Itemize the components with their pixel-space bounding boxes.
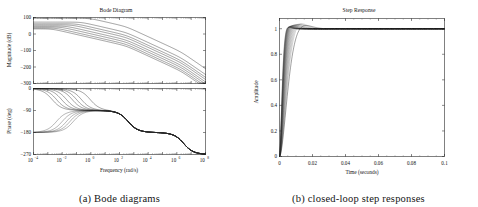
bode-phase-curve-upper (34, 89, 206, 155)
bode-magnitude-tick-label: 0 (28, 31, 31, 37)
bode-frequency-tick-label: 10−4 (28, 156, 38, 163)
svg-text:10: 10 (200, 157, 206, 163)
bode-frequency-tick-label: 104 (142, 156, 151, 163)
svg-text:8: 8 (207, 156, 209, 160)
bode-phase-curve-upper (34, 89, 206, 155)
bode-phase-curve-upper (34, 89, 206, 154)
bode-phase-ylabel: Phase (deg) (6, 108, 13, 134)
step-amplitude-ticks: 00.20.40.60.81 (271, 26, 445, 160)
step-response-curve (280, 25, 445, 157)
bode-magnitude-tick-label: 100 (23, 14, 31, 20)
svg-text:10: 10 (142, 157, 148, 163)
bode-phase-frame (34, 89, 206, 155)
bode-magnitude-ylabel: Magnitude (dB) (6, 33, 13, 68)
step-amplitude-tick-label: 0.8 (271, 51, 278, 57)
step-time-tick-label: 0 (278, 160, 281, 166)
panel-bode-diagrams: Bode Diagram 1000−100−200−300 0−90−180−2… (0, 0, 239, 207)
bode-phase-curves (34, 89, 206, 155)
bode-chart-title: Bode Diagram (100, 7, 133, 13)
svg-text:6: 6 (179, 156, 181, 160)
bode-frequency-tick-label: 10−2 (56, 156, 66, 163)
step-plot-frame (280, 19, 445, 157)
step-response-curve (280, 26, 445, 156)
step-response-curve (280, 27, 445, 157)
step-response-curve (280, 26, 445, 156)
bode-phase-curve-upper (34, 89, 206, 155)
bode-phase-curve-lower (34, 111, 206, 154)
step-response-curve (280, 26, 445, 157)
step-response-curve (280, 24, 445, 156)
step-response-curve (280, 26, 445, 157)
step-amplitude-tick-label: 0.6 (271, 77, 278, 83)
step-response-curve (280, 27, 445, 156)
bode-magnitude-curve (34, 22, 206, 74)
step-chart-title: Step Response (343, 7, 376, 13)
bode-magnitude-tick-label: −200 (20, 64, 31, 70)
bode-phase-tick-label: 0 (28, 85, 31, 91)
bode-phase-curve-upper (34, 89, 206, 155)
step-response-curve (280, 26, 445, 156)
step-xlabel: Time (seconds) (345, 169, 378, 176)
bode-phase-tick-label: −90 (23, 107, 31, 113)
svg-text:0: 0 (93, 156, 95, 160)
svg-text:10: 10 (114, 157, 120, 163)
bode-magnitude-curves (34, 18, 206, 83)
step-response-curve (280, 25, 445, 156)
step-response-curve (280, 27, 445, 156)
bode-phase-curve-upper (34, 89, 206, 155)
caption-a: (a) Bode diagrams (0, 193, 239, 204)
step-response-curve (280, 24, 445, 157)
panel-step-responses: Step Response 00.20.40.60.81 00.020.040.… (239, 0, 478, 207)
bode-phase-tick-label: −180 (20, 129, 31, 135)
step-response-curve (280, 26, 445, 156)
bode-frequency-tick-label: 106 (171, 156, 180, 163)
bode-phase-curve-lower (34, 111, 206, 154)
svg-text:4: 4 (150, 156, 152, 160)
step-time-tick-label: 0.02 (308, 160, 317, 166)
step-response-curve (280, 25, 445, 156)
bode-frequency-tick-label: 108 (200, 156, 209, 163)
svg-text:10: 10 (28, 157, 34, 163)
bode-frequency-tick-label: 102 (114, 156, 123, 163)
step-response-curve (280, 27, 445, 157)
step-response-curves (280, 24, 445, 157)
step-response-curve (280, 25, 445, 157)
bode-plot-svg: Bode Diagram 1000−100−200−300 0−90−180−2… (0, 0, 239, 207)
step-response-curve (280, 24, 445, 157)
step-response-curve (280, 24, 445, 156)
step-response-curve (280, 25, 445, 156)
bode-phase-ticks: 0−90−180−270 (20, 85, 205, 157)
bode-magnitude-curve (34, 26, 206, 82)
step-time-tick-label: 0.1 (441, 160, 448, 166)
bode-magnitude-curve (34, 28, 206, 83)
step-time-tick-label: 0.06 (374, 160, 383, 166)
bode-xlabel: Frequency (rad/s) (100, 167, 138, 174)
caption-b: (b) closed-loop step responses (239, 193, 478, 204)
step-amplitude-tick-label: 0 (274, 153, 277, 159)
bode-phase-curve-lower (34, 111, 206, 154)
step-plot-svg: Step Response 00.20.40.60.81 00.020.040.… (239, 0, 478, 207)
step-amplitude-tick-label: 1 (274, 26, 277, 32)
svg-text:−4: −4 (34, 156, 38, 160)
svg-text:10: 10 (171, 157, 177, 163)
bode-magnitude-curve (34, 29, 206, 83)
step-response-curve (280, 25, 445, 156)
svg-text:10: 10 (85, 157, 91, 163)
bode-phase-curve-lower (34, 111, 206, 154)
step-response-curve (280, 27, 445, 156)
step-time-tick-label: 0.08 (407, 160, 416, 166)
step-response-curve (280, 26, 445, 157)
step-ylabel: Amplitude (253, 80, 259, 104)
bode-magnitude-curve (34, 25, 206, 80)
step-time-tick-label: 0.04 (341, 160, 350, 166)
bode-magnitude-curve (34, 18, 206, 68)
bode-frequency-tick-label: 100 (85, 156, 94, 163)
step-response-curve (280, 27, 445, 156)
bode-phase-curve-upper (34, 89, 206, 154)
bode-frequency-ticks: 10−410−2100102104106108 (28, 18, 209, 164)
step-response-curve (280, 27, 445, 157)
step-response-curve (280, 27, 445, 157)
figure-container: Bode Diagram 1000−100−200−300 0−90−180−2… (0, 0, 478, 207)
step-response-curve-nominal (280, 25, 445, 156)
svg-text:−2: −2 (63, 156, 67, 160)
